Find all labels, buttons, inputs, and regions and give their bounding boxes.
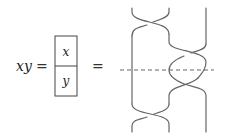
strand-segment [169, 78, 198, 104]
strand-segment [132, 25, 147, 36]
stacked-box: x y [55, 36, 77, 96]
strand-segment [132, 117, 147, 132]
strand-segment [132, 104, 169, 132]
strand-segment [153, 8, 169, 22]
lhs-label: xy [16, 58, 33, 74]
equals-sign-2: = [92, 58, 104, 74]
diagram-canvas: xy = x y = [0, 0, 225, 140]
strand-segment [184, 84, 206, 132]
strand-segment [132, 8, 169, 34]
equals-sign-1: = [36, 58, 48, 74]
box-bottom-label: y [62, 74, 70, 88]
box-top-label: x [63, 45, 70, 59]
strand-segment [154, 104, 169, 114]
strand-segment [191, 44, 206, 53]
strand-segment [169, 34, 206, 78]
